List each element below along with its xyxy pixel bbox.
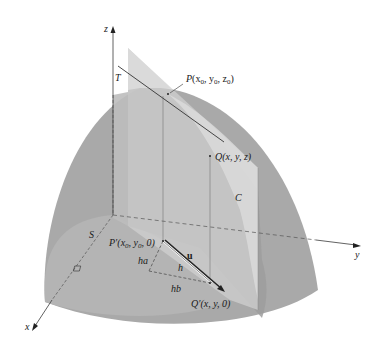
surface-label-s: S (89, 229, 94, 240)
point-p-dot (167, 93, 169, 95)
plane-top (128, 48, 170, 90)
x-axis (35, 300, 52, 326)
x-axis-label: x (24, 321, 30, 332)
point-p-prime-dot (162, 240, 164, 242)
point-p-name: P (185, 73, 192, 84)
point-p-label: P(x0, y0, z0) (185, 73, 234, 86)
y-axis-arrow-icon (353, 243, 361, 248)
diagram-canvas: z x y T S C P(x0, y0, z0) Q(x, y, z) P′(… (0, 0, 379, 350)
curve-label-c: C (235, 192, 242, 203)
leg-ha-label: ha (138, 255, 148, 266)
point-q-label: Q(x, y, z) (215, 151, 252, 163)
point-q-prime-label: Q′(x, y, 0) (191, 298, 231, 310)
leg-hb-label: hb (171, 283, 181, 294)
y-axis (316, 240, 356, 245)
tangent-label-t: T (115, 72, 122, 83)
point-q-prime-dot (209, 282, 211, 284)
plane-edge-strip (113, 92, 128, 226)
z-axis-label: z (103, 23, 108, 34)
z-axis-arrow-icon (111, 26, 116, 33)
vector-u-label: u (187, 250, 193, 261)
x-axis-arrow-icon (32, 323, 38, 331)
hyp-h-label: h (178, 262, 183, 273)
point-q-dot (209, 155, 211, 157)
y-axis-label: y (354, 249, 360, 260)
